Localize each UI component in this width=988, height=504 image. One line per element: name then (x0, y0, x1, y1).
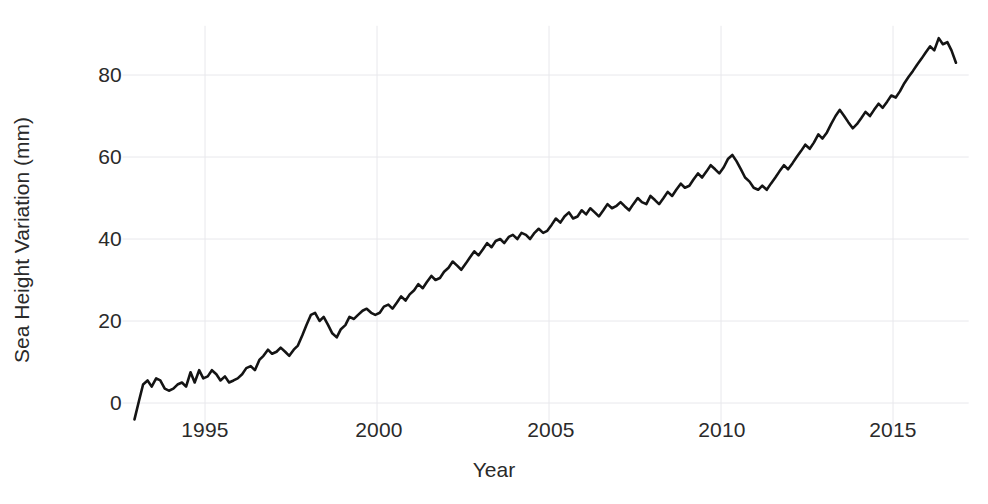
x-tick-label-2010: 2010 (698, 418, 746, 442)
x-tick-label-2015: 2015 (869, 418, 917, 442)
horizontal-gridlines (122, 75, 968, 403)
y-tick-label-80: 80 (70, 63, 122, 87)
plot-area (0, 0, 988, 504)
y-tick-label-60: 60 (70, 145, 122, 169)
y-tick-label-0: 0 (70, 391, 122, 415)
x-tick-label-2000: 2000 (355, 418, 403, 442)
y-tick-label-40: 40 (70, 227, 122, 251)
y-axis-title: Sea Height Variation (mm) (10, 117, 34, 363)
sea-level-line-series (134, 38, 955, 419)
sea-level-chart-figure: 0 20 40 60 80 1995 2000 2005 2010 2015 Y… (0, 0, 988, 504)
x-tick-label-2005: 2005 (527, 418, 575, 442)
x-axis-title: Year (473, 458, 515, 482)
x-tick-label-1995: 1995 (181, 418, 229, 442)
y-tick-label-20: 20 (70, 309, 122, 333)
